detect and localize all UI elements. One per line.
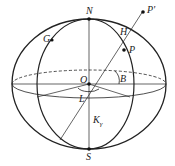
diagram-graphics [0, 0, 175, 166]
label-S: S [86, 152, 91, 162]
label-P: P [129, 45, 135, 55]
label-G: G [43, 34, 50, 44]
sphere-diagram: N S G H P P' O B L Kγ [0, 0, 175, 166]
label-K-sub: γ [100, 120, 103, 128]
label-K: Kγ [93, 115, 102, 128]
angle-B-arc [115, 71, 119, 84]
angle-L-arc [78, 88, 99, 92]
label-O: O [80, 75, 87, 85]
label-L: L [79, 94, 85, 104]
label-N: N [86, 6, 93, 16]
label-H: H [120, 27, 127, 37]
point-G [50, 38, 53, 41]
point-N [87, 17, 91, 21]
label-P-prime: P' [147, 5, 155, 15]
label-B: B [120, 74, 126, 84]
label-K-main: K [93, 114, 100, 125]
point-P [122, 48, 126, 52]
point-O [87, 82, 91, 86]
point-P-prime [141, 10, 145, 14]
